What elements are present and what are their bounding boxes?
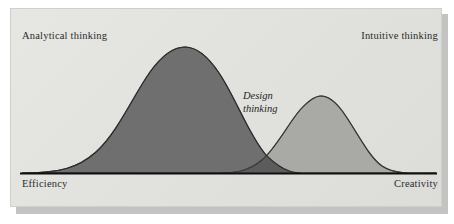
label-design-thinking: Design thinking — [243, 90, 277, 115]
label-efficiency: Efficiency — [22, 178, 68, 189]
label-analytical-thinking: Analytical thinking — [22, 30, 107, 41]
label-design-thinking-line2: thinking — [243, 103, 277, 116]
label-intuitive-thinking: Intuitive thinking — [361, 30, 438, 41]
label-creativity: Creativity — [394, 178, 438, 189]
figure-container: Analytical thinking Intuitive thinking E… — [0, 0, 454, 224]
label-design-thinking-line1: Design — [243, 90, 277, 103]
